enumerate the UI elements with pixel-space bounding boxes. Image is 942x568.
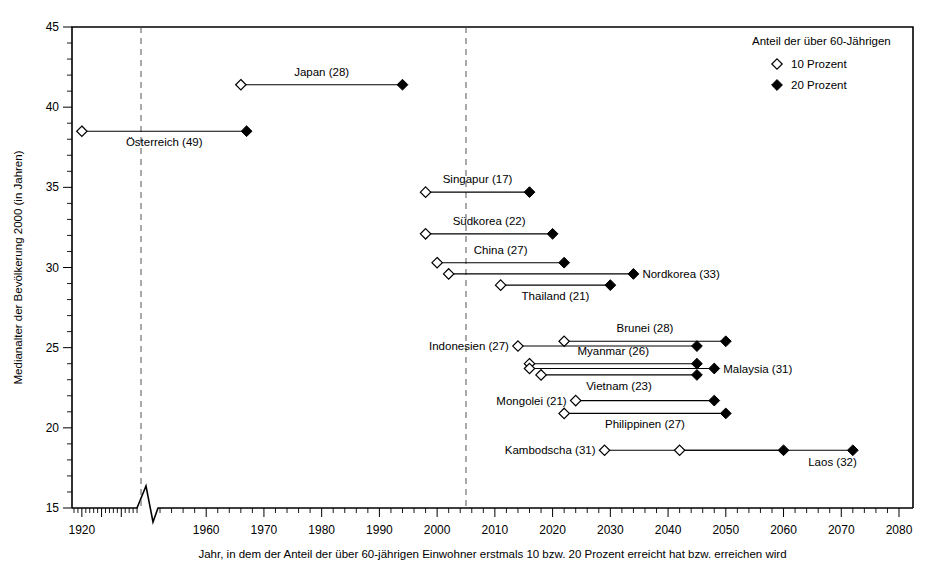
marker-filled-diamond [720, 336, 731, 347]
marker-filled-diamond [559, 257, 570, 268]
series-label: China (27) [474, 244, 528, 256]
y-axis-tick-label: 25 [46, 341, 60, 355]
series-label: Vietnam (23) [586, 380, 652, 392]
x-axis-with-break [72, 486, 913, 522]
marker-open-diamond [559, 336, 569, 346]
legend-title: Anteil der über 60-Jährigen [752, 35, 891, 47]
marker-open-diamond [559, 408, 569, 418]
marker-open-diamond [536, 370, 546, 380]
marker-filled-diamond [524, 187, 535, 198]
series-label: Indonesien (27) [429, 340, 509, 352]
y-axis-tick-label: 40 [46, 100, 60, 114]
x-axis-tick-label: 2010 [482, 523, 509, 537]
marker-filled-diamond [709, 363, 720, 374]
marker-open-diamond [570, 395, 580, 405]
series-label: Südkorea (22) [453, 215, 526, 227]
series-label: Myanmar (26) [577, 345, 649, 357]
marker-filled-diamond [720, 408, 731, 419]
x-axis-tick-label: 2080 [886, 523, 913, 537]
x-axis-tick-label: 2070 [828, 523, 855, 537]
marker-open-diamond [443, 269, 453, 279]
y-axis-tick-label: 20 [46, 421, 60, 435]
series-label: Österreich (49) [126, 136, 203, 148]
legend-entry-label: 10 Prozent [791, 58, 847, 70]
marker-filled-diamond [241, 126, 252, 137]
marker-open-diamond [772, 59, 782, 69]
marker-open-diamond [420, 187, 430, 197]
marker-filled-diamond [709, 395, 720, 406]
series-label: Kambodscha (31) [505, 444, 596, 456]
scatter-chart: 1520253035404519201960197019801990200020… [0, 0, 942, 568]
y-axis-tick-label: 35 [46, 180, 60, 194]
series-label: Mongolei (21) [496, 395, 566, 407]
marker-open-diamond [495, 280, 505, 290]
marker-filled-diamond [847, 445, 858, 456]
x-axis-tick-label: 1980 [308, 523, 335, 537]
marker-filled-diamond [628, 269, 639, 280]
marker-filled-diamond [692, 370, 703, 381]
x-axis-tick-label: 2000 [424, 523, 451, 537]
x-axis-tick-label: 2020 [539, 523, 566, 537]
marker-open-diamond [513, 341, 523, 351]
x-axis-tick-label: 1990 [366, 523, 393, 537]
y-axis-tick-label: 30 [46, 261, 60, 275]
marker-filled-diamond [397, 79, 408, 90]
marker-filled-diamond [772, 80, 783, 91]
marker-open-diamond [77, 126, 87, 136]
series-label: Brunei (28) [617, 322, 674, 334]
marker-open-diamond [674, 445, 684, 455]
plot-frame [72, 27, 913, 508]
chart-container: 1520253035404519201960197019801990200020… [0, 0, 942, 568]
marker-filled-diamond [692, 358, 703, 369]
marker-open-diamond [420, 229, 430, 239]
x-axis-tick-label: 1970 [251, 523, 278, 537]
x-axis-title: Jahr, in dem der Anteil der über 60-jähr… [198, 548, 786, 560]
x-axis-tick-label: 1920 [69, 523, 96, 537]
marker-filled-diamond [605, 280, 616, 291]
y-axis-title: Medianalter der Bevölkerung 2000 (in Jah… [12, 150, 24, 384]
marker-open-diamond [432, 257, 442, 267]
marker-filled-diamond [692, 341, 703, 352]
series-label: Singapur (17) [443, 173, 513, 185]
x-axis-tick-label: 2050 [712, 523, 739, 537]
y-axis-tick-label: 45 [46, 20, 60, 34]
legend-entry-label: 20 Prozent [791, 79, 847, 91]
series-label: Nordkorea (33) [642, 268, 720, 280]
series-label: Thailand (21) [522, 290, 590, 302]
marker-filled-diamond [547, 228, 558, 239]
y-axis-tick-label: 15 [46, 501, 60, 515]
marker-open-diamond [236, 80, 246, 90]
x-axis-tick-label: 2030 [597, 523, 624, 537]
series-label: Laos (32) [808, 456, 857, 468]
x-axis-tick-label: 1960 [193, 523, 220, 537]
marker-open-diamond [599, 445, 609, 455]
series-label: Malaysia (31) [723, 363, 792, 375]
x-axis-tick-label: 2040 [655, 523, 682, 537]
series-label: Philippinen (27) [605, 418, 685, 430]
series-label: Japan (28) [294, 66, 349, 78]
x-axis-tick-label: 2060 [770, 523, 797, 537]
